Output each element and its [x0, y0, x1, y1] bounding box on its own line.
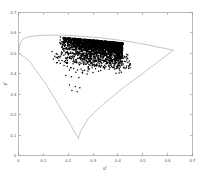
data-point: [80, 59, 82, 61]
data-point: [121, 64, 123, 66]
data-point: [74, 56, 76, 58]
data-point: [63, 41, 65, 43]
data-point: [124, 68, 126, 70]
data-point: [84, 56, 86, 58]
data-point: [97, 57, 99, 59]
data-point-outlier: [70, 67, 72, 69]
y-tick-label: 0.4: [11, 71, 17, 76]
data-point: [85, 56, 87, 58]
data-point: [89, 54, 91, 56]
y-axis-label: v': [3, 82, 8, 85]
data-point: [69, 39, 71, 41]
data-point: [118, 46, 120, 48]
data-point: [67, 43, 69, 45]
data-point: [112, 46, 114, 48]
data-point: [92, 64, 94, 66]
data-point-outlier: [66, 65, 68, 67]
data-point: [100, 47, 102, 49]
data-point: [116, 56, 118, 58]
data-point: [99, 50, 101, 52]
data-point: [119, 70, 121, 72]
data-point: [112, 48, 114, 50]
data-point: [120, 50, 122, 52]
data-point: [96, 51, 98, 53]
data-point: [64, 61, 66, 63]
data-point: [94, 54, 96, 56]
data-point: [61, 51, 63, 53]
data-point-outlier: [88, 68, 90, 70]
data-point: [129, 65, 131, 67]
data-point: [58, 56, 60, 58]
data-point: [125, 61, 127, 63]
data-point: [107, 51, 109, 53]
data-point: [114, 63, 116, 65]
data-point-outlier: [84, 70, 86, 72]
data-point: [85, 63, 87, 65]
data-point: [74, 61, 76, 63]
data-point: [118, 42, 120, 44]
chromaticity-figure: 00.10.20.30.40.50.60.7 00.10.20.30.40.50…: [0, 0, 207, 177]
data-point: [71, 45, 73, 47]
data-point: [70, 55, 72, 57]
data-point: [76, 39, 78, 41]
data-point: [111, 57, 113, 59]
x-tick-label: 0.7: [190, 158, 196, 163]
data-point: [64, 40, 66, 42]
x-axis-ticks: [19, 13, 193, 156]
data-point: [80, 63, 82, 65]
data-point: [82, 45, 84, 47]
data-point: [79, 43, 81, 45]
data-point: [70, 58, 72, 60]
data-point: [98, 60, 100, 62]
data-point: [84, 52, 86, 54]
data-point: [79, 38, 81, 40]
data-point: [115, 57, 117, 59]
data-point: [104, 65, 106, 67]
data-point: [104, 66, 106, 68]
data-point: [61, 47, 63, 49]
data-point-outlier: [86, 73, 88, 75]
data-point: [74, 49, 76, 51]
data-point: [90, 49, 92, 51]
data-point: [83, 47, 85, 49]
data-point: [91, 62, 93, 64]
data-point: [64, 45, 66, 47]
data-point: [120, 62, 122, 64]
data-point: [126, 65, 128, 67]
data-point: [75, 41, 77, 43]
y-tick-label: 0.7: [11, 10, 17, 15]
data-point: [107, 56, 109, 58]
data-point: [61, 60, 63, 62]
data-point: [82, 56, 84, 58]
data-point: [79, 64, 81, 66]
data-point: [76, 61, 78, 63]
data-point: [101, 43, 103, 45]
data-point-outlier: [65, 75, 67, 77]
data-point: [110, 49, 112, 51]
data-point-outlier: [79, 87, 81, 89]
data-point: [90, 59, 92, 61]
data-point: [91, 42, 93, 44]
data-point: [78, 46, 80, 48]
data-point: [104, 40, 106, 42]
data-point: [75, 47, 77, 49]
data-point: [82, 49, 84, 51]
data-point: [63, 48, 65, 50]
data-point: [108, 51, 110, 53]
data-point: [100, 43, 102, 45]
data-point: [109, 48, 111, 50]
data-point: [58, 60, 60, 62]
data-point: [92, 58, 94, 60]
data-point: [73, 46, 75, 48]
data-point: [60, 36, 62, 38]
data-point: [73, 58, 75, 60]
data-point: [103, 57, 105, 59]
data-point: [96, 55, 98, 57]
data-point: [115, 50, 117, 52]
data-point: [74, 54, 76, 56]
data-point: [104, 52, 106, 54]
data-point: [116, 66, 118, 68]
data-point: [126, 59, 128, 61]
data-point: [108, 60, 110, 62]
data-point: [67, 52, 69, 54]
